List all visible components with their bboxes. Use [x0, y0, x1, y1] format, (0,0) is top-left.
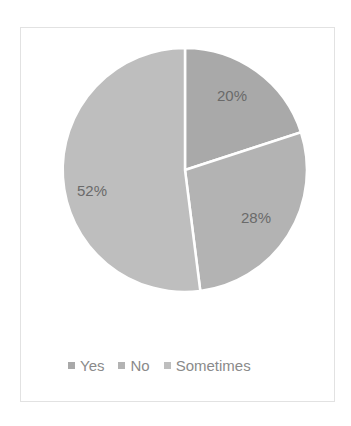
legend-label-yes: Yes	[80, 357, 104, 374]
legend-swatch-yes	[68, 362, 75, 369]
slice-label-yes: 20%	[217, 87, 247, 104]
slice-label-sometimes: 52%	[77, 182, 107, 199]
legend-item-yes: Yes	[68, 357, 104, 374]
legend-label-no: No	[130, 357, 149, 374]
legend-item-no: No	[118, 357, 149, 374]
legend-item-sometimes: Sometimes	[164, 357, 251, 374]
pie-slice-sometimes	[63, 48, 201, 292]
legend-swatch-sometimes	[164, 362, 171, 369]
slice-label-no: 28%	[241, 209, 271, 226]
chart-legend: Yes No Sometimes	[68, 357, 265, 374]
legend-label-sometimes: Sometimes	[176, 357, 251, 374]
legend-swatch-no	[118, 362, 125, 369]
